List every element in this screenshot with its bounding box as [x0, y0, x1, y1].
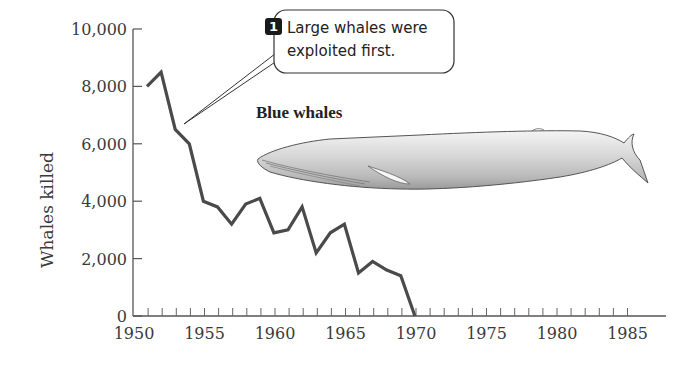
x-axis: 19501955196019651970197519801985: [114, 308, 666, 343]
x-tick-label: 1980: [537, 324, 578, 343]
x-tick-label: 1955: [184, 324, 225, 343]
blue-whale-icon: [258, 129, 648, 190]
x-tick-label: 1975: [466, 324, 507, 343]
callout-line-2: exploited first.: [287, 42, 395, 60]
x-tick-label: 1950: [114, 324, 155, 343]
y-tick-label: 4,000: [81, 192, 127, 211]
y-axis: 02,0004,0006,0008,00010,000: [71, 20, 142, 326]
y-tick-label: 6,000: [81, 135, 127, 154]
y-tick-label: 10,000: [71, 20, 127, 39]
y-tick-label: 2,000: [81, 250, 127, 269]
x-tick-label: 1965: [325, 324, 366, 343]
whale-chart: 02,0004,0006,0008,00010,000 195019551960…: [0, 0, 696, 365]
series-title: Blue whales: [256, 103, 343, 122]
callout-line-1: Large whales were: [287, 19, 427, 37]
y-tick-label: 8,000: [81, 77, 127, 96]
callout-number: 1: [269, 19, 278, 34]
x-tick-label: 1970: [396, 324, 437, 343]
y-axis-title: Whales killed: [37, 152, 57, 268]
x-tick-label: 1960: [255, 324, 296, 343]
x-tick-label: 1985: [607, 324, 648, 343]
